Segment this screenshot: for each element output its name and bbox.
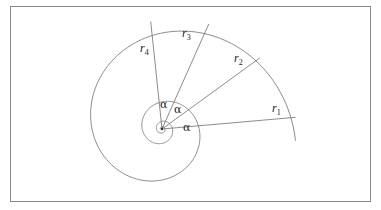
- radius-label-2: r2: [234, 51, 243, 67]
- angle-alpha-label: α: [174, 103, 182, 116]
- spiral-center-point: [161, 128, 163, 130]
- angle-alpha-label: α: [160, 98, 168, 111]
- radius-label-1: r1: [272, 101, 281, 117]
- angle-alpha-label: α: [183, 121, 191, 134]
- radius-label-3: r3: [182, 26, 191, 42]
- radius-label-4: r4: [140, 41, 149, 57]
- radius-line-2: [162, 58, 260, 129]
- spiral-diagram: r1r2r3r4 ααα: [0, 0, 381, 210]
- radius-line-4: [151, 22, 162, 129]
